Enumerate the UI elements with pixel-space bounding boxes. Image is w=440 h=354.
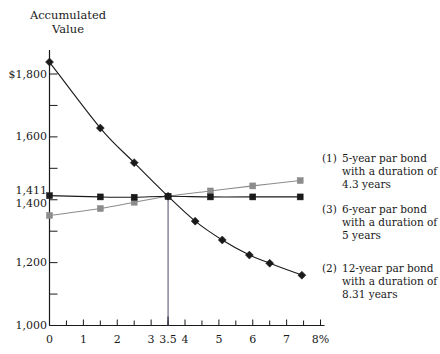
chart-page: Accumulated Value $1,8001,6001,4111,4001… bbox=[0, 0, 440, 354]
legend-entry-2: (2)12-year par bond with a duration of 8… bbox=[322, 262, 440, 301]
x-axis-tick-label: 4 bbox=[182, 334, 189, 345]
x-axis-tick-label: 2 bbox=[114, 334, 121, 345]
x-axis-tick-label: 3.5 bbox=[159, 334, 177, 345]
x-axis-tick-label: 6 bbox=[249, 334, 256, 345]
legend-entry-key: (2) bbox=[322, 262, 341, 275]
legend-entry-1: (1)5-year par bond with a duration of 4.… bbox=[322, 152, 440, 191]
legend-entry-label: 6-year par bond with a duration of 5 yea… bbox=[342, 203, 440, 242]
x-axis-tick-label: 7 bbox=[283, 334, 290, 345]
x-axis-tick-label: 1 bbox=[80, 334, 87, 345]
chart-legend: (1)5-year par bond with a duration of 4.… bbox=[322, 0, 440, 354]
legend-entry-label: 5-year par bond with a duration of 4.3 y… bbox=[342, 152, 440, 191]
x-axis-tick-label: 0 bbox=[46, 334, 53, 345]
legend-entry-key: (3) bbox=[322, 203, 341, 216]
legend-entry-3: (3)6-year par bond with a duration of 5 … bbox=[322, 203, 440, 242]
x-axis-tick-label: 5 bbox=[215, 334, 222, 345]
legend-entry-label: 12-year par bond with a duration of 8.31… bbox=[342, 262, 440, 301]
legend-entry-key: (1) bbox=[322, 152, 341, 165]
x-axis-tick-label: 3 bbox=[148, 334, 155, 345]
